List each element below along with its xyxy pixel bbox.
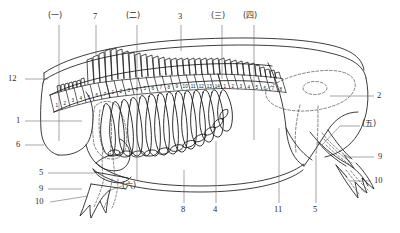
thoracic-num-8: 8 — [168, 86, 171, 91]
cervical-num-2: 2 — [64, 102, 67, 107]
lumbar-num-5: 5 — [256, 86, 259, 91]
lumbar-num-1: 1 — [224, 85, 227, 90]
callout-4: 4 — [213, 205, 217, 214]
callout-11: 11 — [274, 205, 282, 214]
cervical-num-7: 7 — [104, 93, 107, 98]
thoracic-num-1: 1 — [112, 91, 115, 96]
thoracic-num-6: 6 — [152, 87, 155, 92]
callout-12: 12 — [8, 74, 17, 83]
callout-6: 6 — [16, 140, 20, 149]
thoracic-num-14: 14 — [215, 85, 220, 90]
lumbar-num-6: 6 — [264, 87, 267, 92]
leader-cn-6b — [108, 186, 122, 191]
callout-5-bottom: 5 — [313, 205, 317, 214]
callout-1: 1 — [16, 116, 20, 125]
thoracic-num-2: 2 — [120, 90, 123, 95]
leader-10-left — [50, 196, 88, 202]
callout-cn-5: (五) — [362, 120, 376, 128]
thoracic-num-13: 13 — [207, 85, 212, 90]
lumbar-num-7: 7 — [272, 87, 275, 92]
callout-10-right: 10 — [374, 176, 383, 185]
cervical-num-4: 4 — [80, 97, 83, 102]
callout-cn-1: (一) — [48, 12, 62, 20]
leader-cn-5b — [322, 126, 340, 145]
thoracic-num-4: 4 — [136, 88, 139, 93]
callout-cn-6: (六) — [122, 182, 136, 190]
callout-2: 2 — [377, 91, 381, 100]
cervical-num-3: 3 — [72, 99, 75, 104]
cervical-num-5: 5 — [88, 96, 91, 101]
callout-cn-4: (四) — [243, 12, 257, 20]
lumbar-num-3: 3 — [240, 85, 243, 90]
figure-canvas: 1 2 3 4 5 6 7 1 2 3 4 5 6 7 8 9 10 11 12… — [0, 0, 400, 233]
lumbar-num-2: 2 — [232, 85, 235, 90]
callout-5-left: 5 — [39, 168, 43, 177]
callout-cn-3: (三) — [211, 12, 225, 20]
thoracic-num-11: 11 — [191, 85, 196, 90]
thoracic-num-3: 3 — [128, 89, 131, 94]
callout-9-left: 9 — [39, 184, 43, 193]
lumbar-num-8: 8 — [280, 88, 283, 93]
thoracic-num-9: 9 — [176, 85, 179, 90]
callout-3: 3 — [178, 12, 182, 21]
cervical-num-1: 1 — [56, 104, 59, 109]
callout-9-right: 9 — [378, 152, 382, 161]
callout-10-left: 10 — [35, 197, 44, 206]
callout-7: 7 — [93, 12, 97, 21]
thoracic-num-7: 7 — [160, 86, 163, 91]
cervical-num-6: 6 — [96, 94, 99, 99]
thoracic-num-10: 10 — [183, 85, 188, 90]
thoracic-num-5: 5 — [144, 87, 147, 92]
thoracic-num-12: 12 — [199, 85, 204, 90]
leader-lines — [0, 0, 400, 233]
callout-8: 8 — [181, 205, 185, 214]
lumbar-num-4: 4 — [248, 86, 251, 91]
callout-cn-2: (二) — [126, 12, 140, 20]
